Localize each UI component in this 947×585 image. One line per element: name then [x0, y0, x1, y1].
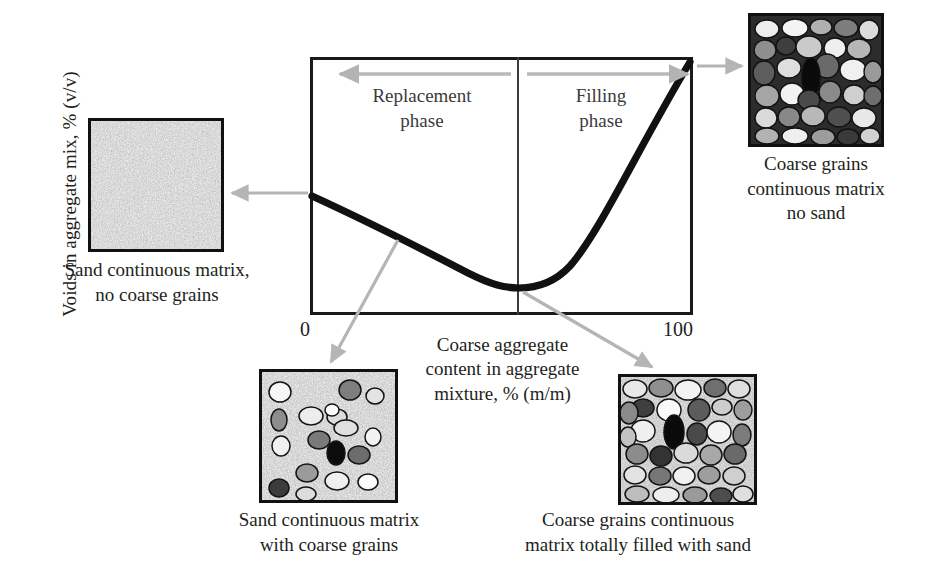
phase-label-replacement: Replacement phase [352, 84, 492, 133]
x-tick-0: 0 [300, 318, 310, 341]
sand-with-coarse-grains-icon [259, 369, 398, 503]
caption-sand-with-coarse-line1: Sand continuous matrix [196, 508, 462, 533]
caption-sand-only: Sand continuous matrix, no coarse grains [22, 258, 292, 307]
phase-replacement-line2: phase [352, 109, 492, 134]
caption-coarse-filled-line1: Coarse grains continuous [496, 508, 780, 533]
phase-filling-line1: Filling [545, 84, 657, 109]
caption-sand-only-line2: no coarse grains [22, 283, 292, 308]
x-axis-label-line3: mixture, % (m/m) [395, 382, 610, 406]
phase-replacement-line1: Replacement [352, 84, 492, 109]
phase-divider-line [517, 57, 519, 315]
caption-coarse-filled-line2: matrix totally filled with sand [496, 533, 780, 558]
coarse-grains-filled-with-sand-icon [618, 374, 757, 505]
x-axis-label: Coarse aggregate content in aggregate mi… [395, 333, 610, 406]
sand-matrix-icon [88, 118, 224, 252]
caption-coarse-no-sand-line2: continuous matrix [700, 177, 932, 202]
caption-coarse-no-sand-line1: Coarse grains [700, 152, 932, 177]
phase-filling-line2: phase [545, 109, 657, 134]
caption-coarse-no-sand: Coarse grains continuous matrix no sand [700, 152, 932, 226]
figure-root: Voids in aggregate mix, % (v/v) Coarse a… [0, 0, 947, 585]
x-axis-label-line2: content in aggregate [395, 357, 610, 381]
x-axis-label-line1: Coarse aggregate [395, 333, 610, 357]
coarse-grains-no-sand-icon [748, 13, 884, 147]
caption-sand-with-coarse: Sand continuous matrix with coarse grain… [196, 508, 462, 557]
x-tick-100: 100 [663, 318, 693, 341]
caption-sand-only-line1: Sand continuous matrix, [22, 258, 292, 283]
caption-coarse-no-sand-line3: no sand [700, 201, 932, 226]
caption-coarse-filled: Coarse grains continuous matrix totally … [496, 508, 780, 557]
caption-sand-with-coarse-line2: with coarse grains [196, 533, 462, 558]
phase-label-filling: Filling phase [545, 84, 657, 133]
